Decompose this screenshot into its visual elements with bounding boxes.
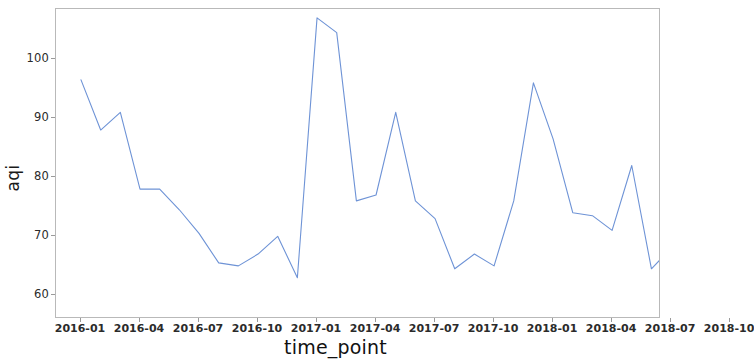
x-axis-tick-mark — [316, 318, 317, 322]
x-axis-tick-mark — [670, 318, 671, 322]
y-axis-tick-label: 70 — [34, 228, 49, 242]
x-axis-tick-mark — [434, 318, 435, 322]
series-polyline — [81, 18, 660, 313]
y-axis-tick-label: 80 — [34, 169, 49, 183]
x-axis-tick-label: 2016-10 — [232, 322, 283, 335]
y-axis-tick-mark — [51, 58, 55, 59]
x-axis-tick-mark — [611, 318, 612, 322]
x-axis-tick-label: 2016-07 — [173, 322, 224, 335]
x-axis-tick-label: 2018-01 — [527, 322, 578, 335]
x-axis-label: time_point — [0, 336, 671, 358]
x-axis-tick-mark — [257, 318, 258, 322]
y-axis-tick-mark — [51, 176, 55, 177]
x-axis-tick-label: 2016-01 — [55, 322, 106, 335]
y-axis-tick-label: 90 — [34, 110, 49, 124]
x-axis-tick-mark — [139, 318, 140, 322]
y-axis-tick-mark — [51, 294, 55, 295]
x-axis-tick-mark — [198, 318, 199, 322]
x-axis-tick-label: 2018-04 — [586, 322, 637, 335]
x-axis-tick-label: 2016-04 — [114, 322, 165, 335]
aqi-line-series — [56, 9, 660, 318]
x-axis-tick-label: 2018-07 — [645, 322, 696, 335]
x-axis-tick-label: 2017-04 — [350, 322, 401, 335]
y-axis-tick-label: 60 — [34, 287, 49, 301]
y-axis-tick-labels: 60708090100 — [0, 0, 49, 360]
x-axis-tick-mark — [493, 318, 494, 322]
x-axis-tick-label: 2018-10 — [704, 322, 754, 335]
x-axis-tick-label: 2017-07 — [409, 322, 460, 335]
x-axis-tick-mark — [729, 318, 730, 322]
y-axis-tick-mark — [51, 117, 55, 118]
x-axis-tick-label: 2017-10 — [468, 322, 519, 335]
plot-area — [55, 8, 660, 318]
y-axis-tick-label: 100 — [26, 51, 49, 65]
x-axis-tick-mark — [80, 318, 81, 322]
x-axis-tick-label: 2017-01 — [291, 322, 342, 335]
y-axis-tick-mark — [51, 235, 55, 236]
x-axis-tick-mark — [375, 318, 376, 322]
x-axis-tick-mark — [552, 318, 553, 322]
